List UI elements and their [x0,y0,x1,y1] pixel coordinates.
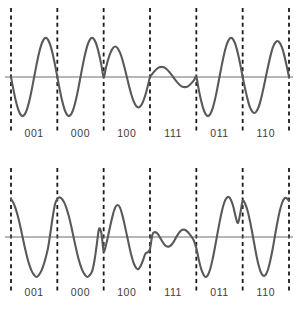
segment-label-111-3: 111 [164,126,182,140]
segment-label-011-4: 011 [210,126,229,140]
bottom-waveform-panel: 001000100111011110 [0,158,296,313]
segment-label-011-4: 011 [210,285,229,299]
segment-label-000-1: 000 [71,285,90,299]
segment-label-110-5: 110 [257,285,276,299]
bottom-boundary-lines [11,168,289,292]
segment-label-100-2: 100 [117,126,136,140]
segment-label-000-1: 000 [71,126,90,140]
segment-label-100-2: 100 [117,285,136,299]
segment-label-001-0: 001 [24,285,43,299]
top-waveform-panel: 001000100111011110 [0,0,296,150]
segment-label-111-3: 111 [164,285,182,299]
segment-label-110-5: 110 [257,126,276,140]
top-boundary-lines [11,8,289,132]
top-segment-labels: 001000100111011110 [0,126,296,144]
segment-label-001-0: 001 [24,126,43,140]
waveform-figure: 001000100111011110 001000100111011110 [0,0,296,313]
bottom-segment-labels: 001000100111011110 [0,285,296,303]
